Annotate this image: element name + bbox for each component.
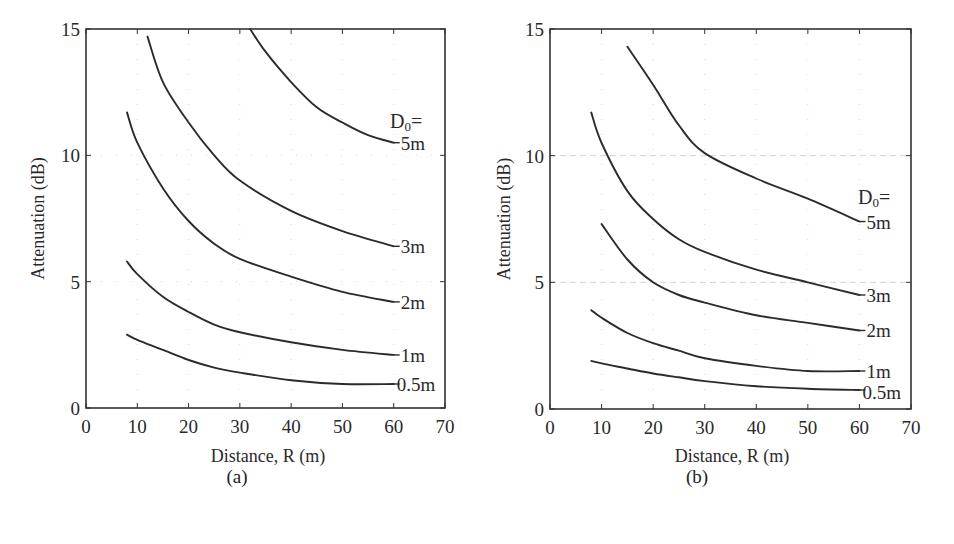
chart-a: 010203040506070051015Distance, R (m)Atte… [0,0,477,544]
x-tick-label: 50 [798,417,817,438]
plot-frame [550,29,911,409]
y-tick-label: 10 [525,146,544,167]
curve-5m [627,47,859,222]
curve-0_5m [127,335,394,385]
x-tick-label: 70 [436,416,455,437]
x-tick-label: 40 [282,416,301,437]
y-tick-label: 15 [61,19,80,40]
series-group: 5m3m2m1m0.5m [591,47,901,403]
curve-2m [127,112,394,302]
x-tick-label: 20 [644,417,663,438]
x-tick-label: 60 [850,417,869,438]
chart-b: 010203040506070051015Distance, R (m)Atte… [477,0,954,544]
plot-frame [86,29,445,408]
x-tick-label: 60 [384,416,403,437]
caption-a: (a) [207,466,267,488]
curve-label: 5m [401,133,426,154]
legend-title: D0= [390,110,422,134]
curve-0_5m [591,361,859,390]
grid [550,29,911,409]
curve-label: 1m [401,345,426,366]
grid [86,29,445,408]
curve-label: 0.5m [862,382,901,403]
x-tick-label: 0 [81,416,91,437]
x-axis-label: Distance, R (m) [211,446,325,467]
x-tick-label: 0 [545,417,555,438]
y-tick-label: 10 [61,145,80,166]
curve-1m [127,262,394,355]
y-axis-label: Attenuation (dB) [28,157,49,279]
panel-b: 010203040506070051015Distance, R (m)Atte… [477,0,954,544]
x-tick-label: 10 [592,417,611,438]
x-axis-label: Distance, R (m) [675,446,789,467]
curve-3m [148,37,394,247]
x-tick-label: 50 [333,416,352,437]
curve-label: 1m [866,361,891,382]
x-tick-label: 30 [695,417,714,438]
y-tick-label: 15 [525,19,544,40]
curve-label: 5m [866,212,891,233]
y-tick-label: 5 [535,272,545,293]
curve-5m [250,29,394,143]
x-tick-label: 70 [902,417,921,438]
curve-label: 2m [401,292,426,313]
curve-2m [602,224,860,330]
curve-1m [591,310,859,371]
caption-b: (b) [667,466,727,488]
curve-label: 2m [866,320,891,341]
curve-label: 3m [401,236,426,257]
curve-label: 0.5m [397,374,436,395]
series-group: 5m3m2m1m0.5m [127,29,435,395]
x-tick-label: 40 [747,417,766,438]
x-tick-label: 30 [230,416,249,437]
panel-a: 010203040506070051015Distance, R (m)Atte… [0,0,477,544]
y-tick-label: 0 [71,398,81,419]
y-tick-label: 5 [71,272,81,293]
y-axis-label: Attenuation (dB) [494,158,515,280]
x-tick-label: 20 [179,416,198,437]
legend-title: D0= [858,186,890,210]
y-tick-label: 0 [535,399,545,420]
curve-label: 3m [866,285,891,306]
x-tick-label: 10 [128,416,147,437]
